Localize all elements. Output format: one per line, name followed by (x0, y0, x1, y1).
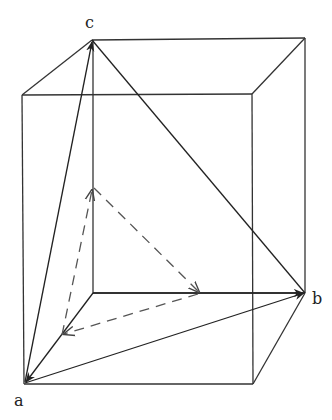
vector-a-to-b (25, 293, 304, 383)
line-c-to-b (92, 40, 305, 293)
dashed-vector-bottom-to-ao (64, 294, 198, 334)
label-a: a (14, 391, 24, 410)
dashed-vectors (62, 188, 199, 335)
solid-vectors (25, 40, 305, 383)
vector-o-to-a (26, 293, 93, 382)
label-b: b (312, 289, 322, 308)
dashed-line-mid-to-bottom (94, 188, 199, 292)
box-edges (22, 38, 305, 384)
label-c: c (85, 13, 94, 32)
vector-a-to-c (25, 42, 92, 382)
box-diagram: c b a (0, 0, 332, 420)
